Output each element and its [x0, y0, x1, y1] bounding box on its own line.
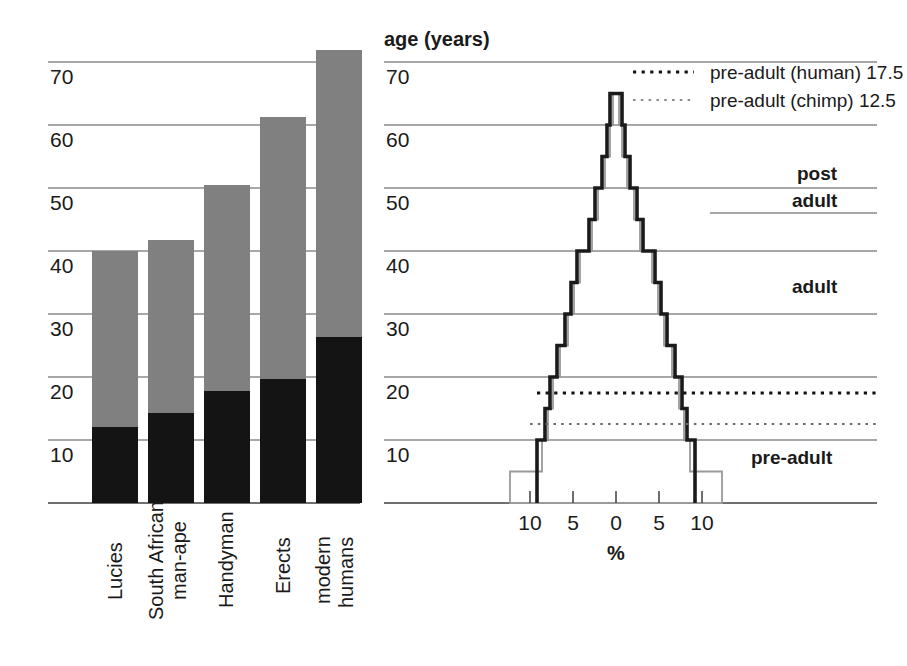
right-xtick-pos5: 5	[653, 511, 665, 534]
right-ytick-10: 10	[386, 443, 409, 466]
right-x-tick-labels: 10 5 0 5 10	[518, 511, 713, 534]
cat-label-man-ape: man-ape	[168, 521, 190, 600]
bar-preadult-modern-humans[interactable]	[316, 337, 362, 503]
bar-group-lucies[interactable]	[92, 251, 138, 503]
bar-adult-erects[interactable]	[260, 117, 306, 379]
bar-adult-handyman[interactable]	[204, 185, 250, 391]
right-ytick-50: 50	[386, 191, 409, 214]
cat-label-lucies: Lucies	[104, 542, 126, 600]
left-ytick-10: 10	[50, 443, 73, 466]
band-labels: post adult adult pre-adult	[751, 163, 838, 468]
figure-root: 70 60 50 40 30 20 10	[0, 0, 907, 666]
left-ytick-20: 20	[50, 380, 73, 403]
right-xtick-neg10: 10	[518, 511, 541, 534]
left-ytick-40: 40	[50, 254, 73, 277]
pyramid-thick-outline	[537, 94, 695, 504]
right-xtick-0: 0	[610, 511, 622, 534]
right-ytick-70: 70	[386, 65, 409, 88]
legend: pre-adult (human) 17.5 pre-adult (chimp)…	[633, 62, 903, 111]
bar-preadult-lucies[interactable]	[92, 427, 138, 503]
bar-preadult-handyman[interactable]	[204, 391, 250, 503]
age-population-pyramid-chart: age (years) 70 60 50 40 30 20 10	[380, 0, 907, 666]
bar-adult-modern-humans[interactable]	[316, 50, 362, 337]
lifespan-stacked-bar-chart: 70 60 50 40 30 20 10	[0, 0, 400, 666]
right-xtick-pos10: 10	[690, 511, 713, 534]
left-ytick-60: 60	[50, 128, 73, 151]
bar-adult-south-african-man-ape[interactable]	[148, 240, 194, 413]
bar-group-modern-humans[interactable]	[316, 50, 362, 503]
legend-label-pre-adult-chimp: pre-adult (chimp) 12.5	[710, 90, 896, 111]
cat-label-erects: Erects	[272, 537, 294, 594]
cat-label-south-african: South African	[145, 501, 167, 620]
legend-label-pre-adult-human: pre-adult (human) 17.5	[710, 62, 903, 83]
bar-group-handyman[interactable]	[204, 185, 250, 503]
band-label-adult-mid: adult	[792, 276, 838, 297]
right-ytick-60: 60	[386, 128, 409, 151]
right-xtick-neg5: 5	[567, 511, 579, 534]
band-label-adult-upper: adult	[792, 190, 838, 211]
percent-axis-title: %	[607, 542, 625, 564]
left-ytick-50: 50	[50, 191, 73, 214]
bar-group-south-african-man-ape[interactable]	[148, 240, 194, 503]
right-ytick-30: 30	[386, 317, 409, 340]
band-label-post: post	[797, 163, 838, 184]
left-category-labels: Lucies South African man-ape Handyman Er…	[104, 501, 357, 620]
left-ytick-70: 70	[50, 65, 73, 88]
age-axis-title: age (years)	[384, 28, 490, 50]
bar-preadult-erects[interactable]	[260, 379, 306, 503]
cat-label-handyman: Handyman	[215, 511, 237, 608]
bar-preadult-south-african-man-ape[interactable]	[148, 413, 194, 503]
right-ytick-40: 40	[386, 254, 409, 277]
cat-label-modern: modern	[312, 536, 334, 604]
right-x-ticks	[530, 491, 702, 503]
left-ytick-30: 30	[50, 317, 73, 340]
bar-group-erects[interactable]	[260, 117, 306, 503]
right-ytick-20: 20	[386, 380, 409, 403]
band-label-pre-adult: pre-adult	[751, 447, 833, 468]
cat-label-humans: humans	[335, 537, 357, 608]
bar-adult-lucies[interactable]	[92, 251, 138, 427]
